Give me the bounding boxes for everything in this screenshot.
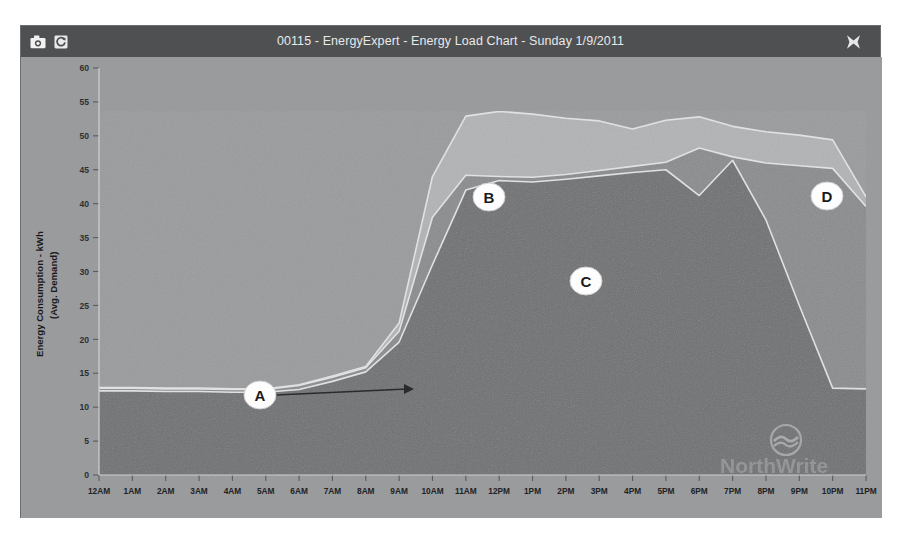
x-tick-label: 9PM: [791, 486, 808, 496]
x-tick-label: 10PM: [822, 486, 844, 496]
y-tick-label: 60: [79, 63, 89, 73]
y-tick-label: 45: [79, 165, 89, 175]
x-tick-label: 3PM: [591, 486, 608, 496]
y-tick-label: 15: [79, 368, 89, 378]
annotation-label-b: B: [484, 189, 495, 206]
x-tick-label: 5AM: [257, 486, 275, 496]
x-tick-label: 2AM: [157, 486, 175, 496]
y-tick-label: 50: [79, 131, 89, 141]
y-axis-title-line1: Energy Consumption - kWh: [34, 231, 45, 357]
y-tick-label: 20: [79, 335, 89, 345]
x-tick-label: 4AM: [224, 486, 242, 496]
energy-area-chart: Energy Consumption - kWh (Avg. Demand) 0…: [21, 57, 882, 518]
chart-canvas: Energy Consumption - kWh (Avg. Demand) 0…: [21, 57, 882, 518]
titlebar-toolbar: [21, 34, 69, 49]
annotation-label-a: A: [255, 387, 266, 404]
x-tick-label: 11AM: [455, 486, 477, 496]
x-tick-label: 1PM: [524, 486, 541, 496]
x-tick-label: 12PM: [488, 486, 510, 496]
y-tick-label: 40: [79, 199, 89, 209]
watermark-text: NorthWrite: [720, 454, 828, 477]
camera-icon[interactable]: [30, 34, 46, 49]
x-tick-label: 4PM: [624, 486, 641, 496]
x-tick-label: 11PM: [855, 486, 876, 496]
x-tick-label: 8PM: [757, 486, 774, 496]
y-tick-label: 0: [84, 470, 89, 480]
x-tick-label: 6PM: [691, 486, 708, 496]
x-tick-label: 8AM: [357, 486, 375, 496]
x-tick-label: 1AM: [124, 486, 142, 496]
close-icon[interactable]: [845, 34, 862, 50]
y-tick-label: 55: [79, 97, 89, 107]
annotation-label-c: C: [581, 273, 592, 290]
energy-load-chart-window: 00115 - EnergyExpert - Energy Load Chart…: [20, 25, 881, 518]
x-tick-label: 5PM: [657, 486, 674, 496]
y-tick-label: 30: [79, 267, 89, 277]
y-tick-label: 25: [79, 301, 89, 311]
x-tick-label: 3AM: [190, 486, 208, 496]
y-tick-label: 35: [79, 233, 89, 243]
x-tick-label: 12AM: [88, 486, 110, 496]
x-tick-label: 7AM: [324, 486, 342, 496]
x-tick-label: 9AM: [390, 486, 408, 496]
window-title-bar: 00115 - EnergyExpert - Energy Load Chart…: [21, 26, 880, 57]
y-tick-label: 5: [84, 436, 89, 446]
y-axis-title-line2: (Avg. Demand): [48, 252, 59, 319]
x-tick-label: 7PM: [724, 486, 741, 496]
x-tick-label: 2PM: [557, 486, 574, 496]
y-tick-label: 10: [79, 402, 89, 412]
refresh-icon[interactable]: [53, 34, 69, 49]
window-title: 00115 - EnergyExpert - Energy Load Chart…: [21, 26, 880, 57]
x-tick-label: 6AM: [290, 486, 308, 496]
annotation-label-d: D: [822, 188, 833, 205]
x-tick-label: 10AM: [421, 486, 443, 496]
